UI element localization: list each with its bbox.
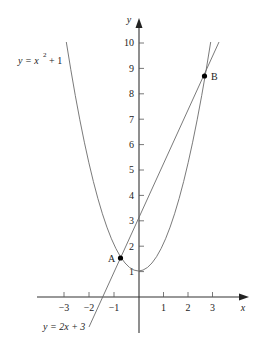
y-axis-arrow-icon [136,18,143,28]
x-axis-label: x [240,302,246,313]
svg-text:−1: −1 [109,302,120,313]
svg-text:−2: −2 [84,302,95,313]
svg-text:1: 1 [161,302,166,313]
x-axis-arrow-icon [239,294,249,301]
parabola-equation-label: y = x 2 + 1 [17,51,62,66]
svg-text:2: 2 [129,241,134,252]
svg-text:y = x: y = x [17,55,39,66]
svg-text:+ 1: + 1 [49,55,62,66]
y-tick-labels: 1 2 3 4 5 6 7 8 9 10 [124,37,134,277]
svg-text:3: 3 [129,215,134,226]
graph-diagram: −3 −2 −1 1 2 3 x 1 2 3 4 5 6 7 8 9 10 y … [0,0,261,343]
point-a-marker [118,255,123,260]
svg-text:6: 6 [129,139,134,150]
point-a-label: A [108,253,116,264]
svg-text:−3: −3 [59,302,70,313]
y-ticks [139,43,144,272]
y-axis-label: y [126,14,132,25]
svg-text:5: 5 [129,164,134,175]
x-tick-labels: −3 −2 −1 1 2 3 [59,302,215,313]
point-b-marker [202,73,207,78]
svg-text:3: 3 [210,302,215,313]
line-equation-label: y = 2x + 3 [42,321,85,332]
x-ticks [64,292,213,297]
svg-text:4: 4 [129,190,134,201]
svg-text:8: 8 [129,88,134,99]
svg-text:2: 2 [43,51,47,59]
point-b-label: B [211,71,218,82]
svg-text:7: 7 [129,114,134,125]
line-curve [89,42,219,327]
svg-text:9: 9 [129,63,134,74]
svg-text:2: 2 [186,302,191,313]
svg-text:10: 10 [124,37,134,48]
